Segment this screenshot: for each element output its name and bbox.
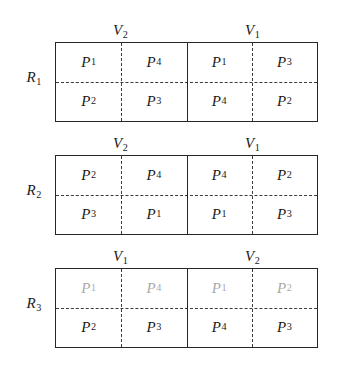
solid-center-divider <box>187 43 188 121</box>
column-headers-3: V1V2 <box>55 246 318 268</box>
v-label-subscript: 2 <box>254 255 260 266</box>
row-label-subscript: 2 <box>36 189 42 200</box>
grid-3: P1P4P1P2P2P3P4P3 <box>55 268 318 348</box>
column-headers-2: V2V1 <box>55 133 318 155</box>
permutation-table-figure: R1V2V1P1P4P1P3P2P3P4P2R2V2V1P2P4P4P2P3P1… <box>0 0 350 367</box>
v-label-subscript: 1 <box>254 29 260 40</box>
row-label-subscript: 3 <box>36 302 42 313</box>
row-label-2: R2 <box>16 183 52 200</box>
grid-1: P1P4P1P3P2P3P4P2 <box>55 42 318 122</box>
v-label-subscript: 2 <box>122 29 128 40</box>
v-label-letter: V <box>113 248 122 264</box>
v-label-letter: V <box>245 22 254 38</box>
v-label-letter: V <box>113 22 122 38</box>
table-block-1: R1V2V1P1P4P1P3P2P3P4P2 <box>0 20 350 122</box>
table-block-3: R3V1V2P1P4P1P2P2P3P4P3 <box>0 246 350 348</box>
row-label-letter: R <box>27 69 36 85</box>
v-label-subscript: 1 <box>122 255 128 266</box>
v-label-letter: V <box>245 248 254 264</box>
grid-2: P2P4P4P2P3P1P1P3 <box>55 155 318 235</box>
row-label-3: R3 <box>16 296 52 313</box>
solid-center-divider <box>187 269 188 347</box>
row-label-subscript: 1 <box>36 76 42 87</box>
row-label-1: R1 <box>16 70 52 87</box>
v-label-subscript: 2 <box>122 142 128 153</box>
table-block-2: R2V2V1P2P4P4P2P3P1P1P3 <box>0 133 350 235</box>
row-label-letter: R <box>27 182 36 198</box>
v-label-subscript: 1 <box>254 142 260 153</box>
v-label-letter: V <box>113 135 122 151</box>
solid-center-divider <box>187 156 188 234</box>
column-headers-1: V2V1 <box>55 20 318 42</box>
v-label-letter: V <box>245 135 254 151</box>
row-label-letter: R <box>27 295 36 311</box>
